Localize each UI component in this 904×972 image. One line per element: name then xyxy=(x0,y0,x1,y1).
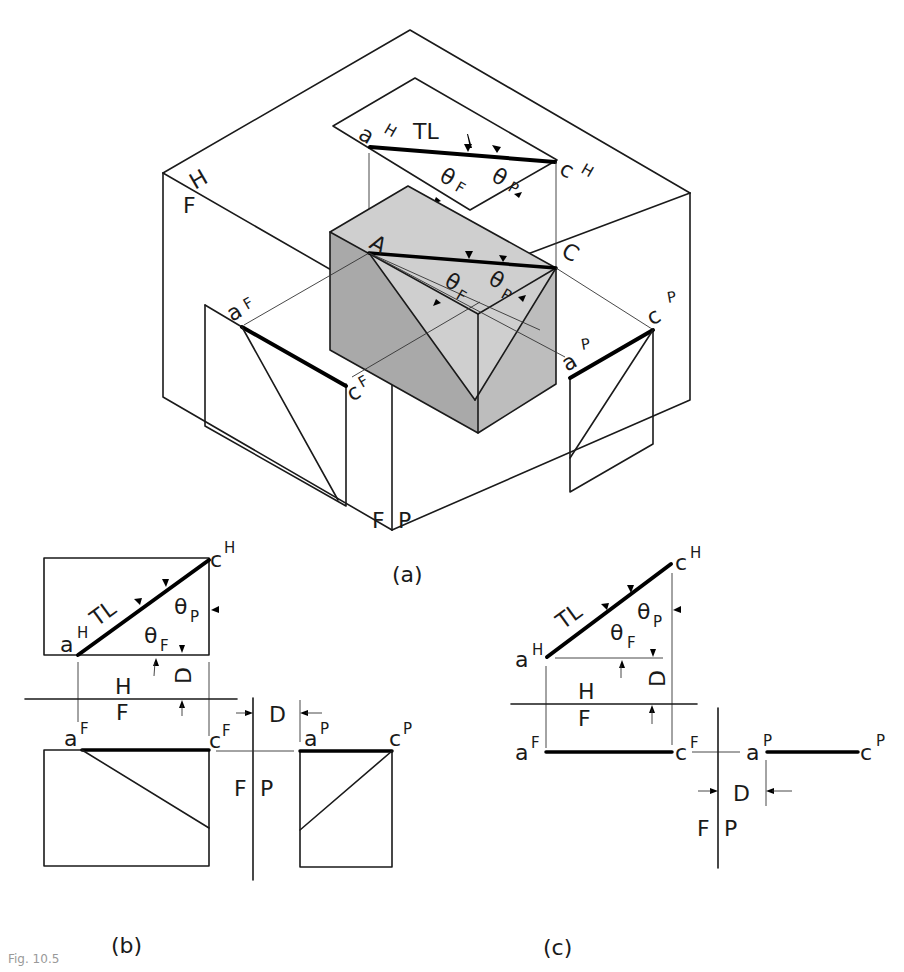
b-front-label-a: a xyxy=(64,726,77,751)
c-profile-label-c-sup: P xyxy=(876,732,885,750)
c-top-label-c: c xyxy=(675,550,687,575)
b-top-theta-p: θ xyxy=(174,594,187,619)
top-view-theta-f-sub: F xyxy=(452,178,468,198)
plane-label-p: P xyxy=(398,508,411,533)
b-fold-label-f2: F xyxy=(234,776,247,801)
b-top-label-a-sup: H xyxy=(77,624,88,642)
b-top-label-c: c xyxy=(210,547,222,572)
profile-label-a-sup: P xyxy=(580,335,592,354)
b-profile-label-c: c xyxy=(389,726,401,751)
arrow-icon xyxy=(134,598,142,605)
glass-box-top-edge xyxy=(163,30,690,193)
arrow-icon xyxy=(492,145,501,153)
frontal-label-a-sup: F xyxy=(240,294,256,314)
c-front-label-a: a xyxy=(515,740,528,765)
c-fold-label-f: F xyxy=(578,706,591,731)
b-top-theta-f: θ xyxy=(144,623,157,648)
panel-a-pictorial: H F F P a H TL c H θ F θ P A xyxy=(163,30,690,587)
c-front-label-c-sup: F xyxy=(690,734,699,752)
c-top-theta-f-sub: F xyxy=(627,634,636,652)
b-profile-diagonal xyxy=(300,751,392,830)
b-fold-label-p: P xyxy=(260,776,273,801)
b-front-diagonal xyxy=(82,750,209,828)
c-top-depth: D xyxy=(645,670,670,687)
top-view-label-tl: TL xyxy=(412,119,439,144)
c-fold-label-p: P xyxy=(724,816,737,841)
arrow-icon xyxy=(619,660,625,668)
panel-a-label: (a) xyxy=(392,562,423,587)
top-view-label-c-sup: H xyxy=(578,160,597,181)
b-top-theta-f-sub: F xyxy=(160,637,169,655)
c-top-label-a: a xyxy=(515,647,528,672)
b-depth-profile: D xyxy=(269,702,286,727)
b-top-theta-p-sub: P xyxy=(190,608,199,626)
panel-c-label: (c) xyxy=(543,935,572,960)
projector-c-profile xyxy=(556,268,652,329)
arrow-icon xyxy=(179,645,185,653)
arrow-icon xyxy=(673,606,681,613)
figure-caption: Fig. 10.5 xyxy=(8,952,59,966)
c-depth-profile: D xyxy=(733,781,750,806)
b-front-label-a-sup: F xyxy=(80,720,89,738)
b-top-depth: D xyxy=(171,667,196,684)
top-view-true-length-line xyxy=(370,147,555,162)
arrow-icon xyxy=(162,579,169,587)
arrow-icon xyxy=(650,649,656,657)
profile-label-c: c xyxy=(642,303,665,331)
top-view-label-a-sup: H xyxy=(381,120,400,141)
c-top-label-c-sup: H xyxy=(690,544,701,562)
b-front-label-c-sup: F xyxy=(222,722,231,740)
panel-c-orthographic: a H c H TL θ P θ F D H F a F c F F P D xyxy=(511,544,885,960)
arrow-icon xyxy=(211,606,219,613)
top-view-label-a: a xyxy=(355,121,379,149)
b-top-label-a: a xyxy=(60,632,73,657)
c-profile-label-c: c xyxy=(860,740,872,765)
c-fold-label-f2: F xyxy=(697,816,710,841)
figure-canvas: H F F P a H TL c H θ F θ P A xyxy=(0,0,904,972)
b-profile-label-a-sup: P xyxy=(320,720,329,738)
c-top-theta-p-sub: P xyxy=(653,613,662,631)
profile-label-c-sup: P xyxy=(666,288,678,307)
panel-b-orthographic: a H c H TL θ P θ F D H F F P D xyxy=(25,539,412,958)
c-profile-label-a-sup: P xyxy=(763,732,772,750)
c-top-theta-f: θ xyxy=(610,620,623,645)
c-front-label-a-sup: F xyxy=(531,734,540,752)
b-fold-label-f: F xyxy=(116,700,129,725)
b-profile-view-box xyxy=(300,751,392,867)
c-top-theta-p: θ xyxy=(637,599,650,624)
b-fold-label-h: H xyxy=(115,674,132,699)
arrow-icon xyxy=(464,134,472,152)
b-profile-label-c-sup: P xyxy=(403,720,412,738)
arrow-icon xyxy=(153,658,159,666)
panel-b-label: (b) xyxy=(111,933,142,958)
plane-label-f-lower: F xyxy=(372,508,385,533)
b-front-view-box xyxy=(44,750,209,866)
c-top-label-a-sup: H xyxy=(532,641,543,659)
b-profile-label-a: a xyxy=(304,726,317,751)
c-front-label-c: c xyxy=(675,740,687,765)
c-profile-label-a: a xyxy=(746,740,759,765)
b-top-label-c-sup: H xyxy=(224,539,235,557)
plane-label-h: H xyxy=(185,164,212,194)
plane-label-f: F xyxy=(183,193,196,218)
arrow-icon xyxy=(710,788,718,794)
c-fold-label-h: H xyxy=(578,679,595,704)
b-front-label-c: c xyxy=(209,728,221,753)
top-view-label-c: c xyxy=(556,156,579,184)
